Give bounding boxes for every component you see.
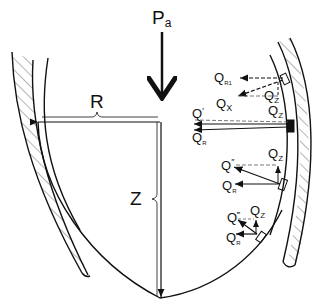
q2-label: Q″ — [221, 157, 235, 173]
qx-label: QX — [216, 96, 232, 113]
q3-label: Q‴ — [227, 210, 240, 225]
force-group-2: Q′ QR QZ — [192, 103, 294, 146]
q3r-label: QR — [226, 230, 241, 246]
radius-label: R — [90, 91, 104, 112]
force-group-4: Q‴ QR QZ — [226, 203, 266, 246]
force-diagram: Pa R Z QR1 QX QZ Q′ QR QZ — [0, 0, 312, 307]
q2r-label: QR — [222, 178, 237, 194]
q3z-label: QZ — [250, 203, 265, 220]
q1r-label: QR — [192, 130, 207, 146]
pressure-label: Pa — [152, 7, 172, 30]
force-group-3: Q″ QR QZ — [221, 146, 288, 194]
depth-dimension: Z — [130, 122, 161, 297]
qr1-label: QR1 — [214, 70, 232, 86]
radius-dimension: R — [38, 91, 160, 122]
depth-label: Z — [130, 188, 142, 209]
pressure-arrow: Pa — [152, 7, 172, 98]
left-wall — [12, 52, 90, 277]
q1z-label: QZ — [268, 103, 283, 120]
right-wall — [278, 38, 311, 267]
bowl-curve — [38, 122, 282, 298]
right-membrane — [270, 55, 287, 235]
q1-label: Q′ — [192, 106, 204, 121]
q2z-label: QZ — [268, 146, 283, 163]
